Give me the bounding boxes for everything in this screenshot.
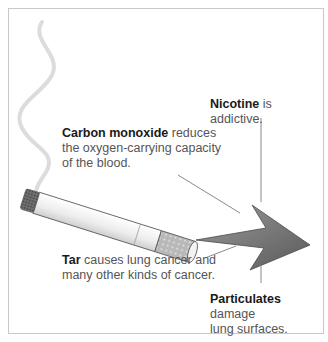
label-particulates: Particulates damage lung surfaces. (210, 292, 328, 337)
leader-carbon-monoxide (178, 175, 240, 213)
term-nicotine: Nicotine (210, 97, 259, 111)
cigarette-paper (33, 192, 162, 251)
smoke-trail (19, 22, 54, 192)
cigarette-illustration (0, 0, 328, 342)
label-tar: Tar causes lung cancer and many other ki… (62, 253, 216, 283)
term-particulates: Particulates (210, 292, 281, 306)
term-tar: Tar (62, 253, 81, 267)
label-carbon-monoxide: Carbon monoxide reduces the oxygen-carry… (62, 126, 221, 171)
label-nicotine: Nicotine is addictive. (210, 97, 328, 127)
term-carbon-monoxide: Carbon monoxide (62, 126, 168, 140)
